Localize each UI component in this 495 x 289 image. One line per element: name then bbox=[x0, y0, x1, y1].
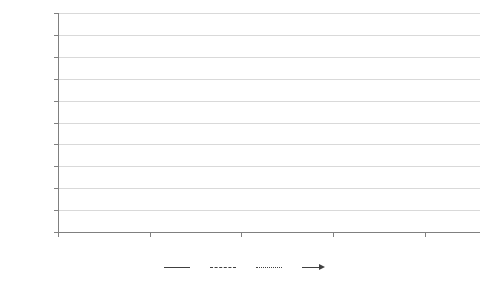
legend-item-third-quartile[interactable] bbox=[256, 264, 285, 272]
legend-key-arrow-icon bbox=[302, 264, 328, 272]
legend-item-second-quartile[interactable] bbox=[210, 264, 239, 272]
legend-key-dashed-icon bbox=[210, 264, 236, 272]
legend-item-bottom-quartile[interactable] bbox=[164, 264, 193, 272]
series-container bbox=[0, 0, 495, 289]
chart-legend bbox=[0, 264, 495, 272]
legend-key-solid-icon bbox=[164, 264, 190, 272]
legend-item-top-quartile[interactable] bbox=[302, 264, 331, 272]
legend-key-dotted-icon bbox=[256, 264, 282, 272]
line-chart bbox=[0, 0, 495, 289]
